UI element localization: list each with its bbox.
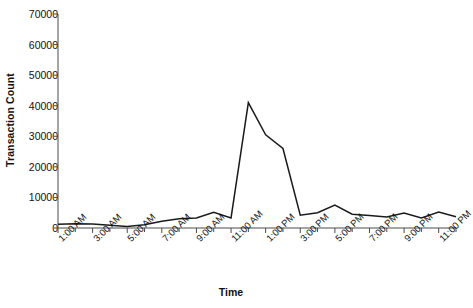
x-axis-tick-label: 7:00 PM xyxy=(367,211,400,244)
x-axis-title: Time xyxy=(0,286,462,298)
x-axis-tick-label: 1:00 PM xyxy=(264,211,297,244)
x-axis-tick-label: 5:00 PM xyxy=(333,211,366,244)
x-axis-tick-label: 9:00 PM xyxy=(402,211,435,244)
x-axis-tick-label: 3:00 PM xyxy=(298,211,331,244)
x-axis-tick-label: 1:00 AM xyxy=(56,211,88,243)
x-axis-tick-label: 3:00 AM xyxy=(91,211,123,243)
x-axis-tick-label: 11:00 PM xyxy=(437,208,473,244)
x-axis-tick-label: 7:00 AM xyxy=(160,211,192,243)
x-axis-tick-label: 9:00 AM xyxy=(194,211,226,243)
x-axis-tick-label: 11:00 AM xyxy=(229,208,265,244)
x-axis-tick-label: 5:00 AM xyxy=(125,211,157,243)
